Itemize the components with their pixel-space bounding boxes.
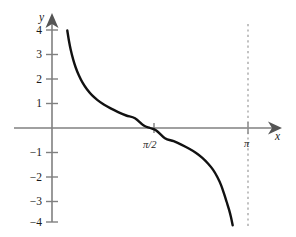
x-tick-label-pi-over-2: π/2 xyxy=(143,140,156,151)
y-tick-label-4: 4 xyxy=(24,25,42,37)
x-axis-label: x xyxy=(275,131,280,143)
y-tick-label-minus-3: −3 xyxy=(18,196,42,208)
plot-svg xyxy=(0,0,296,237)
x-tick-label-pi: π xyxy=(244,139,249,150)
y-tick-label-1: 1 xyxy=(24,98,42,110)
y-tick-label-2: 2 xyxy=(24,74,42,86)
y-tick-label-minus-4: −4 xyxy=(18,217,42,229)
y-tick-label-minus-1: −1 xyxy=(18,147,42,159)
y-tick-label-minus-2: −2 xyxy=(18,172,42,184)
cotangent-graph-figure: 4 3 2 1 −1 −2 −3 −4 π/2 π y x xyxy=(0,0,296,237)
y-axis-label: y xyxy=(39,12,44,24)
y-tick-label-3: 3 xyxy=(24,49,42,61)
